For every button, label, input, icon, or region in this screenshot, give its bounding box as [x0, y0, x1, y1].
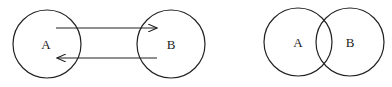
diagram-canvas: A B A B: [0, 0, 392, 87]
venn-set-a-label: A: [293, 35, 303, 50]
node-a-label: A: [41, 37, 51, 52]
node-b-label: B: [167, 37, 176, 52]
venn-set-b-label: B: [346, 35, 355, 50]
left-diagram: A B: [13, 10, 205, 78]
venn-diagram: A B: [264, 8, 384, 76]
